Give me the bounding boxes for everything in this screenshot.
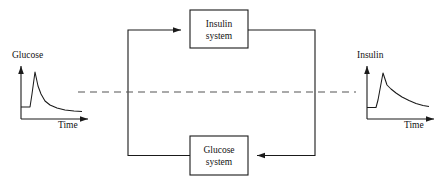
glucose-chart [21,66,88,119]
insulin-chart-y-axis-label: Insulin [357,50,383,61]
glucose-system-label-line2: system [190,156,248,168]
diagram-canvas: Glucose Time Insulin Time Insulin system… [0,0,438,185]
insulin-system-label: Insulin system [190,18,248,43]
glucose-chart-x-axis-label: Time [58,120,78,131]
glucose-chart-y-axis-label: Glucose [12,50,43,61]
glucose-system-label-line1: Glucose [190,144,248,156]
insulin-system-label-line2: system [190,30,248,42]
insulin-system-label-line1: Insulin [190,18,248,30]
insulin-to-glucose-path [248,30,315,156]
insulin-response-curve [367,73,429,108]
glucose-to-insulin-path [128,30,190,156]
glucose-response-curve [21,72,82,112]
insulin-chart [367,66,434,119]
glucose-system-label: Glucose system [190,144,248,169]
insulin-chart-x-axis-label: Time [404,120,424,131]
